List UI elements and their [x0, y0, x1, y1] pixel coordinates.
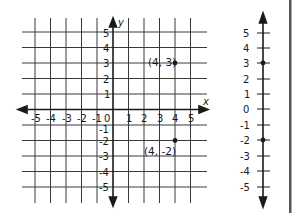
svg-text:5: 5	[188, 113, 194, 124]
point-label-4-neg2: (4, -2)	[144, 145, 176, 157]
point-4-neg2	[173, 138, 178, 143]
number-line-labels: 5 4 3 2 1 0 -1 -2 -3 -4 -5	[240, 28, 250, 193]
y-axis-label: y	[117, 17, 125, 28]
svg-text:3: 3	[157, 113, 163, 124]
figure: y x -5 -4 -3 -2 -1 0 1 2 3 4 5 5 4 3 2 1…	[0, 0, 297, 213]
svg-text:2: 2	[103, 74, 109, 85]
svg-text:2: 2	[243, 74, 249, 85]
svg-text:-5: -5	[99, 182, 109, 193]
number-line-point-3	[261, 61, 266, 66]
svg-text:1: 1	[126, 113, 132, 124]
svg-text:2: 2	[141, 113, 147, 124]
svg-text:-2: -2	[77, 113, 87, 124]
svg-text:0: 0	[243, 104, 249, 115]
svg-text:3: 3	[243, 58, 249, 69]
svg-text:5: 5	[103, 28, 109, 39]
svg-text:5: 5	[243, 28, 249, 39]
svg-text:-2: -2	[240, 135, 250, 146]
svg-text:-5: -5	[31, 113, 41, 124]
svg-text:3: 3	[103, 58, 109, 69]
coordinate-grid	[22, 18, 207, 203]
svg-text:-4: -4	[46, 113, 56, 124]
svg-text:-1: -1	[92, 113, 102, 124]
svg-text:-4: -4	[99, 167, 109, 178]
svg-text:4: 4	[103, 43, 109, 54]
y-axis	[110, 18, 117, 206]
svg-text:1: 1	[244, 89, 250, 100]
divider	[289, 0, 292, 213]
svg-text:1: 1	[104, 89, 110, 100]
svg-text:-3: -3	[62, 113, 72, 124]
svg-text:4: 4	[172, 113, 178, 124]
svg-text:-2: -2	[99, 136, 109, 147]
number-line	[260, 13, 267, 207]
svg-text:4: 4	[243, 43, 249, 54]
svg-text:-5: -5	[240, 182, 250, 193]
svg-text:-1: -1	[240, 120, 250, 131]
number-line-point-neg2	[261, 138, 266, 143]
svg-text:0: 0	[104, 113, 110, 124]
y-tick-labels: 5 4 3 2 1 -1 -2 -3 -4 -5	[99, 28, 110, 193]
svg-text:-3: -3	[240, 151, 250, 162]
svg-text:-1: -1	[99, 124, 109, 135]
x-axis-label: x	[202, 96, 209, 107]
point-label-4-3: (4, 3)	[148, 56, 176, 68]
svg-text:-4: -4	[240, 166, 250, 177]
svg-text:-3: -3	[99, 151, 109, 162]
